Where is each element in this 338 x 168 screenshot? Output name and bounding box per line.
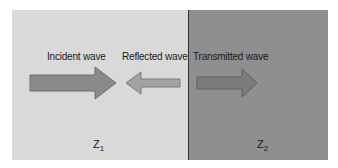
interface-boundary: [188, 10, 189, 160]
transmitted-wave-arrow-icon: [196, 68, 258, 98]
incident-wave-label: Incident wave: [47, 51, 106, 62]
incident-wave-arrow-icon: [29, 66, 117, 100]
impedance-z2-label: Z2: [257, 138, 268, 153]
transmitted-wave-label: Transmitted wave: [193, 51, 268, 62]
impedance-z1-label: Z1: [93, 138, 104, 153]
reflected-wave-label: Reflected wave: [122, 51, 188, 62]
reflected-wave-arrow-icon: [125, 71, 181, 95]
